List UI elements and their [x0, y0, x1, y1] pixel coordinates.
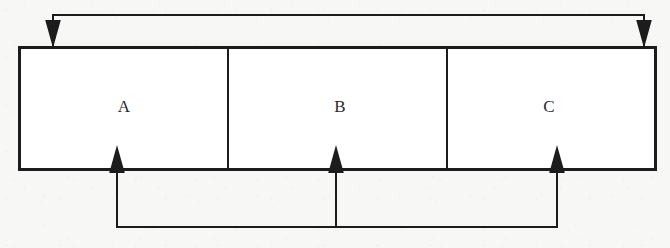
segment-label-c: C: [543, 97, 555, 117]
block-diagram-graphic: [0, 0, 670, 248]
top-feedback-line: [53, 15, 644, 46]
segment-label-b: B: [334, 97, 346, 117]
diagram-canvas: A B C: [0, 0, 670, 248]
segment-label-a: A: [118, 97, 130, 117]
